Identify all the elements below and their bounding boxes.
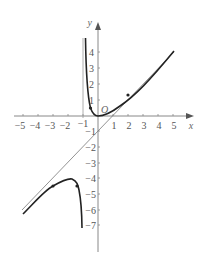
marked-point [51, 184, 54, 187]
y-tick-label: −7 [85, 220, 96, 231]
y-tick-label: −6 [85, 205, 96, 216]
x-tick-label: 1 [112, 120, 117, 131]
x-tick-label: 4 [157, 120, 162, 131]
marked-point [75, 184, 78, 187]
x-tick-label: 3 [142, 120, 147, 131]
y-tick-label: −1 [85, 126, 96, 137]
x-tick-label: −4 [30, 120, 41, 131]
y-tick-label: −2 [85, 142, 96, 153]
x-tick-label: −5 [15, 120, 26, 131]
x-axis-label: x [188, 120, 194, 131]
curve-right-branch [86, 38, 175, 116]
y-axis-arrow-icon [95, 22, 101, 30]
x-tick-label: 2 [127, 120, 132, 131]
function-graph: −5 −4 −3 −2 −1 1 2 3 4 5 x 1 2 3 4 −1 −2… [0, 0, 211, 259]
y-tick-label: −4 [85, 173, 96, 184]
x-tick-label: −2 [60, 120, 71, 131]
y-tick-label: 3 [89, 63, 94, 74]
y-tick-label: 2 [89, 79, 94, 90]
y-tick-label: 4 [89, 47, 94, 58]
marked-point [126, 93, 129, 96]
x-axis-arrow-icon [186, 113, 194, 119]
y-tick-label: −3 [85, 158, 96, 169]
y-axis-label: y [87, 17, 93, 28]
x-tick-label: −3 [45, 120, 56, 131]
y-tick-label: −5 [85, 189, 96, 200]
marked-point [89, 106, 92, 109]
x-tick-label: 5 [172, 120, 177, 131]
